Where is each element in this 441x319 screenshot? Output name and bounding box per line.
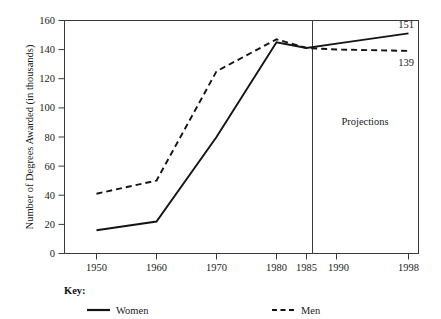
y-tick-label: 0 <box>50 248 55 259</box>
y-tick-label: 100 <box>39 102 55 113</box>
legend-entry-men: Men <box>272 305 321 316</box>
legend-label-men: Men <box>301 305 321 316</box>
y-tick-label: 140 <box>39 44 55 55</box>
key-title: Key: <box>64 285 86 296</box>
x-tick-label: 1985 <box>296 262 317 273</box>
y-tick-label: 60 <box>45 161 56 172</box>
legend-label-women: Women <box>116 305 149 316</box>
y-tick-label: 40 <box>45 190 56 201</box>
line-chart: 160 140 120 100 80 60 40 20 0 Number of … <box>0 0 441 319</box>
men-end-value-label: 139 <box>398 57 414 68</box>
chart-figure: 160 140 120 100 80 60 40 20 0 Number of … <box>0 0 441 319</box>
plot-frame <box>65 21 419 254</box>
y-tick-label: 120 <box>39 73 55 84</box>
women-end-value-label: 151 <box>398 19 414 30</box>
y-tick-label: 80 <box>45 132 56 143</box>
projections-label: Projections <box>341 116 388 127</box>
x-tick-label: 1950 <box>86 262 107 273</box>
x-tick-label: 1960 <box>146 262 167 273</box>
x-axis-tick-labels: 1950 1960 1970 1980 1985 1990 1998 <box>86 262 419 273</box>
x-tick-label: 1970 <box>206 262 227 273</box>
x-axis-ticks <box>97 254 409 260</box>
y-tick-label: 20 <box>45 219 56 230</box>
x-tick-label: 1998 <box>398 262 419 273</box>
y-axis-ticks <box>59 21 65 254</box>
x-tick-label: 1990 <box>328 262 349 273</box>
y-axis-tick-labels: 160 140 120 100 80 60 40 20 0 <box>39 15 55 259</box>
y-axis-title: Number of Degrees Awarded (in thousands) <box>24 44 36 229</box>
legend-entry-women: Women <box>87 305 149 316</box>
x-tick-label: 1980 <box>266 262 287 273</box>
y-tick-label: 160 <box>39 15 55 26</box>
series-line-women <box>97 33 409 230</box>
